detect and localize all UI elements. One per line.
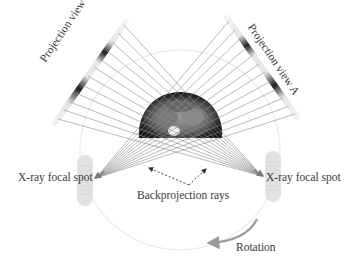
backprojection-arrows xyxy=(149,168,206,185)
ct-backprojection-diagram: Projection view B Projection view A X-ra… xyxy=(0,0,353,266)
focal-spot-right-label: X-ray focal spot xyxy=(266,172,341,184)
focal-spot-left-label: X-ray focal spot xyxy=(18,172,93,184)
backprojection-rays-label: Backprojection rays xyxy=(137,190,229,202)
patient-ct-slice xyxy=(139,92,222,139)
gantry-circle xyxy=(80,50,280,250)
rotation-arrow xyxy=(209,219,257,243)
rotation-label: Rotation xyxy=(236,242,276,254)
